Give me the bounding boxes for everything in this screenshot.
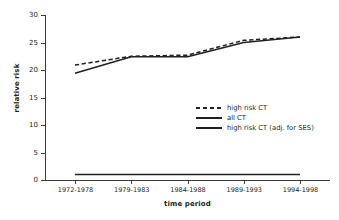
y-tick-label: 30 xyxy=(29,11,38,19)
x-axis-title: time period xyxy=(45,200,330,208)
y-axis-line xyxy=(45,15,46,181)
chart-legend: high risk CTall CThigh risk CT (adj. for… xyxy=(196,103,314,133)
y-tick-label: 0 xyxy=(34,176,38,184)
x-tick-1984-1988: 1984-1988 xyxy=(188,180,189,184)
y-tick-label: 10 xyxy=(29,121,38,129)
y-tick-30: 30 xyxy=(41,15,45,16)
y-tick-label: 5 xyxy=(34,149,38,157)
y-tick-mark xyxy=(41,125,45,126)
x-tick-label: 1979-1983 xyxy=(114,186,149,194)
y-tick-10: 10 xyxy=(41,125,45,126)
x-tick-label: 1972-1978 xyxy=(58,186,93,194)
relative-risk-line-chart: relative risk 051015202530 1972-19781979… xyxy=(0,0,339,220)
y-tick-5: 5 xyxy=(41,153,45,154)
y-tick-mark xyxy=(41,15,45,16)
y-tick-mark xyxy=(41,153,45,154)
legend-swatch-dashed xyxy=(196,103,222,113)
x-tick-1979-1983: 1979-1983 xyxy=(131,180,132,184)
y-tick-label: 20 xyxy=(29,66,38,74)
x-tick-mark xyxy=(244,180,245,184)
legend-item: all CT xyxy=(196,113,314,123)
y-tick-mark xyxy=(41,180,45,181)
solid-line-icon xyxy=(196,127,222,129)
x-tick-label: 1984-1988 xyxy=(170,186,205,194)
y-tick-25: 25 xyxy=(41,43,45,44)
legend-label: high risk CT (adj. for SES) xyxy=(227,124,314,132)
x-tick-label: 1994-1998 xyxy=(283,186,318,194)
y-tick-15: 15 xyxy=(41,98,45,99)
y-tick-mark xyxy=(41,98,45,99)
legend-item: high risk CT (adj. for SES) xyxy=(196,123,314,133)
y-tick-mark xyxy=(41,70,45,71)
series-line-high-risk-ct xyxy=(75,37,300,65)
x-tick-mark xyxy=(300,180,301,184)
legend-item: high risk CT xyxy=(196,103,314,113)
x-tick-mark xyxy=(75,180,76,184)
legend-swatch-solid xyxy=(196,113,222,123)
x-tick-1994-1998: 1994-1998 xyxy=(300,180,301,184)
x-tick-1989-1993: 1989-1993 xyxy=(244,180,245,184)
y-tick-20: 20 xyxy=(41,70,45,71)
x-tick-mark xyxy=(131,180,132,184)
y-tick-0: 0 xyxy=(41,180,45,181)
series-line-high-risk-ct-adj-for-ses xyxy=(75,37,300,73)
legend-label: all CT xyxy=(227,114,246,122)
y-axis-title: relative risk xyxy=(13,38,21,138)
legend-label: high risk CT xyxy=(227,104,267,112)
x-tick-mark xyxy=(188,180,189,184)
y-tick-label: 25 xyxy=(29,39,38,47)
x-tick-1972-1978: 1972-1978 xyxy=(75,180,76,184)
x-tick-label: 1989-1993 xyxy=(227,186,262,194)
solid-line-icon xyxy=(196,117,222,119)
y-tick-mark xyxy=(41,43,45,44)
dashed-line-icon xyxy=(196,107,222,109)
legend-swatch-solid xyxy=(196,123,222,133)
y-tick-label: 15 xyxy=(29,94,38,102)
